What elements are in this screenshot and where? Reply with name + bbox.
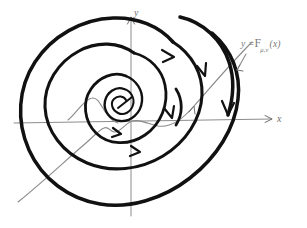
graph-squiggle — [68, 98, 118, 123]
curve-label-argument: (x) — [270, 39, 281, 49]
y-axis-label: y — [133, 7, 139, 18]
spiral-group — [21, 17, 239, 205]
sketch-canvas: x y — [0, 0, 307, 228]
curve-label-subscript: μ,ν — [260, 46, 268, 53]
curve-label-lhs: y = — [241, 39, 255, 49]
spiral-arrowhead-upper-middle — [162, 50, 174, 62]
sketch-figure: x y y =Fμ,ν(x) — [0, 0, 307, 228]
curve-label: y =Fμ,ν(x) — [241, 37, 281, 51]
graph-squiggle-group — [68, 98, 118, 123]
spiral-nucleus — [112, 89, 134, 114]
spiral-turn-second — [45, 42, 202, 169]
curve-label-leader-arrowhead — [237, 65, 243, 71]
x-axis-label: x — [276, 113, 282, 124]
